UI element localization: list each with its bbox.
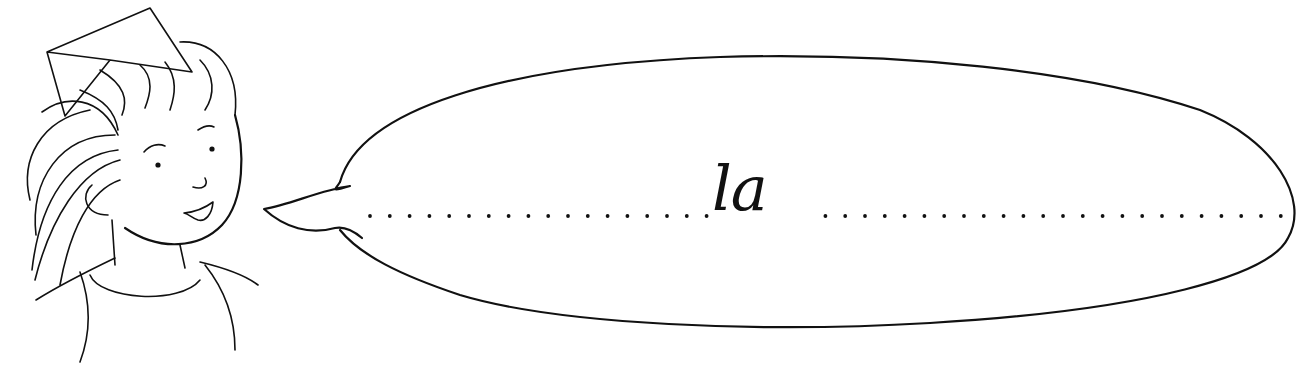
guide-dot — [527, 214, 531, 218]
guide-dot — [546, 214, 550, 218]
guide-dot — [1160, 214, 1164, 218]
guide-dot — [685, 214, 689, 218]
ear — [86, 185, 108, 215]
guide-dot — [982, 214, 986, 218]
nose — [193, 178, 206, 188]
speech-word: la — [712, 158, 767, 220]
left-eye — [155, 162, 160, 167]
guide-dot — [1121, 214, 1125, 218]
hair — [28, 42, 236, 300]
mouth — [184, 202, 213, 220]
illustration: la — [0, 0, 1310, 371]
guide-dot — [863, 214, 867, 218]
guide-dot — [1002, 214, 1006, 218]
guide-dot — [606, 214, 610, 218]
collar — [90, 275, 200, 296]
guide-dot — [903, 214, 907, 218]
guide-dot — [824, 214, 828, 218]
drawing-canvas — [0, 0, 1310, 371]
right-eye — [209, 146, 214, 151]
guide-dot — [1081, 214, 1085, 218]
guide-dot — [1239, 214, 1243, 218]
guide-dot — [467, 214, 471, 218]
guide-dot — [1279, 214, 1283, 218]
guide-dot — [447, 214, 451, 218]
bubble-tail — [264, 182, 362, 238]
guide-dot — [1259, 214, 1263, 218]
left-eyebrow — [144, 145, 165, 152]
speech-bubble — [264, 56, 1294, 327]
guide-dot — [428, 214, 432, 218]
guide-dot — [1220, 214, 1224, 218]
guide-dot — [586, 214, 590, 218]
guide-dot — [942, 214, 946, 218]
guide-dot — [408, 214, 412, 218]
guide-dot — [645, 214, 649, 218]
guide-dot — [1180, 214, 1184, 218]
guide-dot — [507, 214, 511, 218]
shoulders — [80, 262, 258, 362]
child-figure — [28, 8, 259, 362]
guide-dot — [1101, 214, 1105, 218]
guide-dot — [1022, 214, 1026, 218]
face-outline — [125, 115, 241, 244]
guide-dot — [665, 214, 669, 218]
guide-dot — [487, 214, 491, 218]
guide-dot — [843, 214, 847, 218]
dotted-guide-line — [368, 214, 1283, 218]
guide-dot — [1200, 214, 1204, 218]
party-hat — [47, 8, 192, 116]
guide-dot — [626, 214, 630, 218]
right-eyebrow — [198, 126, 214, 130]
guide-dot — [1041, 214, 1045, 218]
guide-dot — [566, 214, 570, 218]
guide-dot — [388, 214, 392, 218]
guide-dot — [368, 214, 372, 218]
guide-dot — [1061, 214, 1065, 218]
guide-dot — [1140, 214, 1144, 218]
guide-dot — [705, 214, 709, 218]
guide-dot — [923, 214, 927, 218]
bubble-outline — [340, 56, 1294, 327]
guide-dot — [962, 214, 966, 218]
guide-dot — [883, 214, 887, 218]
